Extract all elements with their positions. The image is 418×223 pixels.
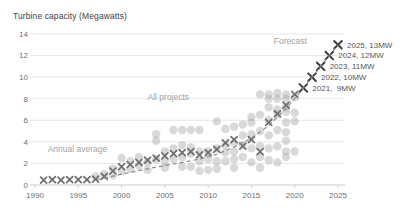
all-projects-point	[265, 156, 273, 164]
all-projects-point	[273, 142, 281, 150]
all-projects-point	[187, 126, 195, 134]
all-projects-point	[143, 166, 151, 174]
all-projects-point	[239, 120, 247, 128]
all-projects-point	[178, 153, 186, 161]
all-projects-point	[213, 157, 221, 165]
all-projects-point	[247, 158, 255, 166]
x-axis-tick-label: 2000	[113, 191, 131, 200]
all-projects-point	[169, 126, 177, 134]
all-projects-point	[247, 118, 255, 126]
all-projects-point	[291, 147, 299, 155]
all-projects-point	[195, 126, 203, 134]
all-projects-point	[273, 126, 281, 134]
forecast-point-label: 2021, 9MW	[312, 84, 356, 93]
all-projects-label: All projects	[148, 92, 190, 102]
y-axis-tick-label: 6	[24, 116, 29, 125]
all-projects-point	[247, 144, 255, 152]
forecast-point-label: 2022, 10MW	[321, 73, 367, 82]
forecast-point-label: 2024, 12MW	[338, 51, 384, 60]
all-projects-point	[109, 171, 117, 179]
forecast-point-label: 2023, 11MW	[330, 62, 375, 71]
all-projects-point	[265, 144, 273, 152]
all-projects-point	[291, 109, 299, 117]
all-projects-point	[221, 125, 229, 133]
all-projects-point	[282, 137, 290, 145]
all-projects-point	[178, 162, 186, 170]
annual-average-label: Annual average	[48, 144, 108, 154]
all-projects-point	[204, 166, 212, 174]
y-axis-tick-label: 4	[24, 138, 29, 147]
forecast-label: Forecast	[274, 36, 308, 46]
all-projects-point	[178, 126, 186, 134]
all-projects-point	[161, 147, 169, 155]
all-projects-point	[239, 131, 247, 139]
x-axis-tick-label: 2025	[329, 191, 347, 200]
all-projects-point	[256, 164, 264, 172]
all-projects-point	[178, 141, 186, 149]
all-projects-point	[221, 157, 229, 165]
y-axis-tick-label: 8	[24, 95, 29, 104]
x-axis-tick-label: 2010	[199, 191, 217, 200]
y-axis-tick-label: 2	[24, 159, 29, 168]
x-axis-tick-label: 1995	[69, 191, 87, 200]
all-projects-point	[273, 95, 281, 103]
turbine-capacity-chart: Turbine capacity (Megawatts) 19901995200…	[0, 0, 418, 223]
y-axis-tick-label: 10	[19, 73, 28, 82]
x-axis-tick-label: 2015	[243, 191, 261, 200]
y-axis-tick-label: 14	[19, 30, 28, 39]
all-projects-point	[213, 117, 221, 125]
all-projects-point	[282, 128, 290, 136]
all-projects-point	[265, 131, 273, 139]
x-axis-tick-label: 2020	[286, 191, 304, 200]
all-projects-point	[282, 153, 290, 161]
all-projects-point	[230, 155, 238, 163]
x-axis-tick-label: 1990	[26, 191, 44, 200]
all-projects-point	[230, 147, 238, 155]
all-projects-point	[230, 164, 238, 172]
y-axis-tick-label: 12	[19, 51, 28, 60]
all-projects-point	[117, 154, 125, 162]
chart-plot-area: 1990199520002005201020152020202502468101…	[0, 0, 418, 223]
all-projects-point	[230, 123, 238, 131]
x-axis-tick-label: 2005	[156, 191, 174, 200]
all-projects-point	[152, 137, 160, 145]
all-projects-point	[256, 111, 264, 119]
all-projects-point	[282, 118, 290, 126]
all-projects-point	[213, 165, 221, 173]
all-projects-point	[256, 127, 264, 135]
all-projects-point	[195, 167, 203, 175]
forecast-point-label: 2025, 13MW	[347, 41, 393, 50]
all-projects-point	[239, 153, 247, 161]
y-axis-tick-label: 0	[24, 181, 29, 190]
all-projects-point	[187, 162, 195, 170]
all-projects-point	[273, 158, 281, 166]
all-projects-point	[265, 103, 273, 111]
all-projects-point	[265, 95, 273, 103]
all-projects-point	[256, 90, 264, 98]
all-projects-point	[291, 117, 299, 125]
